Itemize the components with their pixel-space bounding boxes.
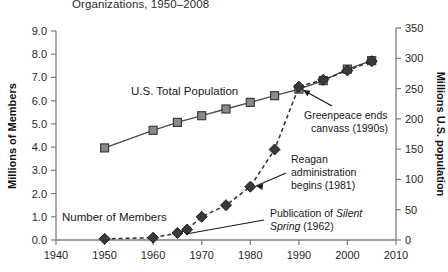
x-tick-2000: 2000: [335, 249, 359, 261]
x-tick-1980: 1980: [238, 249, 262, 261]
annotation-greenpeace-line1: Greenpeace ends: [304, 109, 387, 121]
annotation-silent-spring-italic1: Silent: [336, 207, 363, 219]
left-axis-ticks: [51, 31, 56, 240]
left-tick-5: 5.0: [32, 118, 47, 130]
annotation-silent-spring-suffix: (1962): [300, 220, 333, 232]
chart-figure: Organizations, 1950–2008 0.0 1.0 2.0 3.0…: [0, 0, 448, 272]
right-tick-2: 100: [405, 173, 423, 185]
right-axis-ticks: [396, 28, 401, 240]
x-axis-tick-labels: 1940 1950 1960 1970 1980 1990 2000 2010: [44, 249, 408, 261]
left-tick-2: 2.0: [32, 188, 47, 200]
right-axis-title: Millions U.S. population: [435, 72, 447, 197]
annotation-silent-spring-italic2: Spring: [270, 220, 301, 232]
left-tick-7: 7.0: [32, 71, 47, 83]
left-tick-8: 8.0: [32, 48, 47, 60]
x-tick-2010: 2010: [384, 249, 408, 261]
right-tick-1: 50: [405, 204, 417, 216]
right-tick-0: 0: [405, 234, 411, 246]
annotation-silent-spring-line1: Publication of Silent: [270, 207, 363, 219]
x-tick-1940: 1940: [44, 249, 68, 261]
population-series-markers: [101, 57, 376, 152]
population-series-line: [105, 61, 372, 148]
annotation-reagan-line3: begins (1981): [291, 179, 355, 191]
left-tick-9: 9.0: [32, 25, 47, 37]
left-tick-4: 4.0: [32, 141, 47, 153]
right-tick-4: 200: [405, 113, 423, 125]
chart-plot: 0.0 1.0 2.0 3.0 4.0 5.0 6.0 7.0 8.0 9.0 …: [0, 0, 448, 272]
members-series-label: Number of Members: [62, 211, 167, 223]
annotation-greenpeace: Greenpeace ends canvass (1990s): [303, 90, 388, 134]
left-axis-tick-labels: 0.0 1.0 2.0 3.0 4.0 5.0 6.0 7.0 8.0 9.0: [32, 25, 47, 246]
annotation-silent-spring-prefix: Publication of: [270, 207, 336, 219]
left-tick-6: 6.0: [32, 95, 47, 107]
right-tick-3: 150: [405, 143, 423, 155]
annotation-silent-spring-line2: Spring (1962): [270, 220, 334, 232]
x-tick-1960: 1960: [141, 249, 165, 261]
x-tick-1970: 1970: [189, 249, 213, 261]
left-tick-3: 3.0: [32, 164, 47, 176]
annotation-reagan: Reagan administration begins (1981): [256, 153, 357, 191]
population-series-label: U.S. Total Population: [131, 85, 238, 97]
right-tick-6: 300: [405, 52, 423, 64]
left-tick-1: 1.0: [32, 211, 47, 223]
right-tick-7: 350: [405, 22, 423, 34]
annotation-reagan-line1: Reagan: [291, 153, 328, 165]
left-axis-title: Millions of Members: [6, 83, 18, 189]
right-tick-5: 250: [405, 83, 423, 95]
annotation-reagan-line2: administration: [291, 166, 357, 178]
right-axis-tick-labels: 0 50 100 150 200 250 300 350: [405, 22, 423, 246]
x-tick-1990: 1990: [287, 249, 311, 261]
x-tick-1950: 1950: [92, 249, 116, 261]
annotation-greenpeace-line2: canvass (1990s): [311, 122, 388, 134]
left-tick-0: 0.0: [32, 234, 47, 246]
